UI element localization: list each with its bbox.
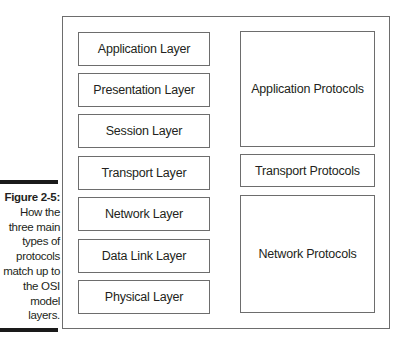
osi-layer-physical: Physical Layer bbox=[78, 280, 210, 314]
protocol-group-network: Network Protocols bbox=[240, 195, 375, 313]
caption-line: How the bbox=[0, 205, 60, 220]
caption-line: three main bbox=[0, 220, 60, 235]
layer-label: Application Layer bbox=[98, 42, 191, 56]
layer-label: Network Layer bbox=[105, 207, 183, 221]
caption-text: Figure 2-5: How the three main types of … bbox=[0, 184, 60, 328]
layer-label: Physical Layer bbox=[105, 290, 184, 304]
osi-layer-data-link: Data Link Layer bbox=[78, 239, 210, 273]
protocol-label: Transport Protocols bbox=[255, 164, 360, 178]
figure-title: Figure 2-5: bbox=[0, 190, 60, 205]
osi-layer-network: Network Layer bbox=[78, 197, 210, 231]
osi-layer-transport: Transport Layer bbox=[78, 156, 210, 190]
caption-line: types of bbox=[0, 234, 60, 249]
protocol-group-application: Application Protocols bbox=[240, 31, 375, 147]
layer-label: Presentation Layer bbox=[93, 83, 194, 97]
protocol-label: Network Protocols bbox=[258, 247, 356, 261]
layer-label: Data Link Layer bbox=[102, 249, 187, 263]
caption-line: protocols bbox=[0, 249, 60, 264]
caption-line: layers. bbox=[0, 308, 60, 323]
osi-layer-session: Session Layer bbox=[78, 114, 210, 148]
caption-line: model bbox=[0, 294, 60, 309]
figure-caption: Figure 2-5: How the three main types of … bbox=[0, 180, 60, 332]
caption-line: the OSI bbox=[0, 279, 60, 294]
layer-label: Transport Layer bbox=[102, 166, 187, 180]
protocol-label: Application Protocols bbox=[251, 82, 364, 96]
caption-line: match up to bbox=[0, 264, 60, 279]
layer-label: Session Layer bbox=[106, 124, 183, 138]
osi-layer-presentation: Presentation Layer bbox=[78, 73, 210, 107]
protocol-group-transport: Transport Protocols bbox=[240, 154, 375, 187]
caption-bottom-rule bbox=[0, 328, 58, 332]
osi-layer-application: Application Layer bbox=[78, 32, 210, 66]
